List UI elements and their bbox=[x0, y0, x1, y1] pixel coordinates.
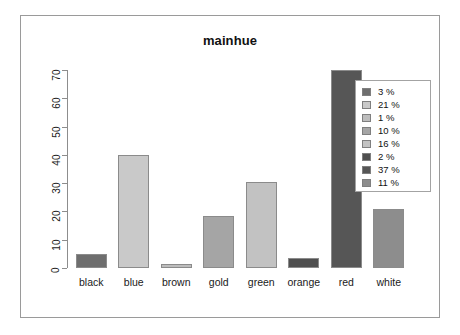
bar bbox=[373, 209, 404, 268]
bar bbox=[76, 254, 107, 268]
y-axis-tick-label: 20 bbox=[51, 211, 62, 222]
x-axis-tick-label: black bbox=[70, 276, 113, 288]
y-axis-tick bbox=[62, 183, 67, 184]
legend-label: 16 % bbox=[378, 139, 400, 149]
y-axis-tick bbox=[62, 127, 67, 128]
legend-swatch bbox=[362, 179, 371, 187]
legend-item: 21 % bbox=[362, 98, 430, 111]
legend-label: 10 % bbox=[378, 126, 400, 136]
x-axis-tick-label: gold bbox=[198, 276, 241, 288]
legend-item: 16 % bbox=[362, 137, 430, 150]
bar bbox=[246, 182, 277, 268]
y-axis-tick-label: 40 bbox=[51, 154, 62, 165]
bar bbox=[203, 216, 234, 268]
y-axis-tick bbox=[62, 70, 67, 71]
y-axis-tick bbox=[62, 268, 67, 269]
legend-item: 11 % bbox=[362, 176, 430, 189]
chart-figure: mainhue 010203040506070 blackbluebrowngo… bbox=[0, 0, 460, 335]
y-axis-tick-label-holder: 0 bbox=[0, 268, 56, 269]
y-axis-tick bbox=[62, 155, 67, 156]
y-axis-tick-label-holder: 60 bbox=[0, 98, 56, 99]
y-axis-tick-label: 70 bbox=[51, 70, 62, 81]
y-axis-tick bbox=[62, 98, 67, 99]
y-axis-tick bbox=[62, 211, 67, 212]
legend-item: 37 % bbox=[362, 163, 430, 176]
legend-swatch bbox=[362, 88, 371, 96]
bar bbox=[118, 155, 149, 268]
legend-item: 2 % bbox=[362, 150, 430, 163]
x-axis-tick-label: white bbox=[368, 276, 411, 288]
legend-item: 10 % bbox=[362, 124, 430, 137]
y-axis-tick-label-holder: 10 bbox=[0, 240, 56, 241]
bar bbox=[288, 258, 319, 268]
legend-swatch bbox=[362, 153, 371, 161]
legend-swatch bbox=[362, 166, 371, 174]
y-axis-tick-label-holder: 70 bbox=[0, 70, 56, 71]
legend-swatch bbox=[362, 114, 371, 122]
y-axis-tick-label: 50 bbox=[51, 126, 62, 137]
bar bbox=[161, 264, 192, 268]
legend-label: 21 % bbox=[378, 100, 400, 110]
chart-legend: 3 %21 %1 %10 %16 %2 %37 %11 % bbox=[355, 80, 431, 192]
y-axis-tick-label: 60 bbox=[51, 98, 62, 109]
y-axis-tick-label-holder: 50 bbox=[0, 127, 56, 128]
chart-title: mainhue bbox=[0, 33, 460, 48]
x-axis-tick-label: orange bbox=[283, 276, 326, 288]
legend-swatch bbox=[362, 101, 371, 109]
legend-label: 2 % bbox=[378, 152, 394, 162]
legend-label: 37 % bbox=[378, 165, 400, 175]
x-axis-tick-label: brown bbox=[155, 276, 198, 288]
legend-label: 3 % bbox=[378, 87, 394, 97]
y-axis-tick-label-holder: 30 bbox=[0, 183, 56, 184]
legend-swatch bbox=[362, 127, 371, 135]
legend-label: 11 % bbox=[378, 178, 399, 188]
legend-swatch bbox=[362, 140, 371, 148]
legend-label: 1 % bbox=[378, 113, 394, 123]
x-axis-tick-label: blue bbox=[113, 276, 156, 288]
y-axis-tick-label: 0 bbox=[51, 268, 62, 274]
y-axis-tick-label: 30 bbox=[51, 183, 62, 194]
legend-item: 3 % bbox=[362, 85, 430, 98]
x-axis-tick-label: green bbox=[240, 276, 283, 288]
y-axis-line bbox=[67, 70, 68, 268]
y-axis-tick-label-holder: 20 bbox=[0, 211, 56, 212]
x-axis-tick-label: red bbox=[325, 276, 368, 288]
y-axis-tick bbox=[62, 240, 67, 241]
y-axis-tick-label-holder: 40 bbox=[0, 155, 56, 156]
y-axis-tick-label: 10 bbox=[51, 239, 62, 250]
legend-item: 1 % bbox=[362, 111, 430, 124]
